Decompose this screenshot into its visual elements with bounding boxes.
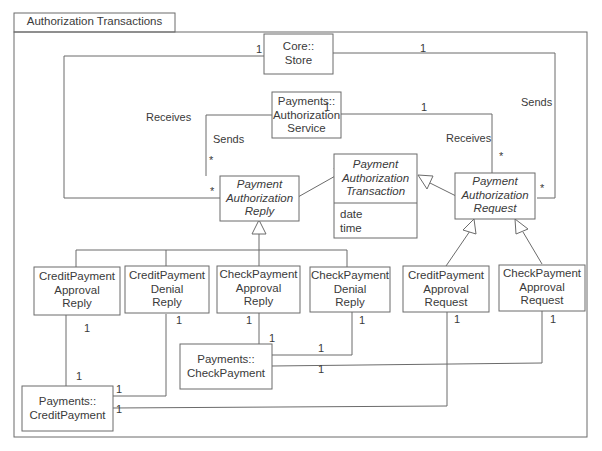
multiplicity: 1	[420, 42, 426, 54]
generalization-reply-transaction	[298, 175, 337, 197]
class-name-payment-authorization-transaction: Payment Authorization Transaction	[334, 158, 417, 199]
multiplicity: 1	[318, 342, 324, 354]
class-name-creditpayment: Payments:: CreditPayment	[22, 395, 113, 422]
generalization-credit-request	[446, 231, 470, 266]
multiplicity: *	[209, 154, 213, 166]
multiplicity: *	[540, 182, 544, 194]
class-name-checkpayment-denial-reply: CheckPayment Denial Reply	[310, 269, 390, 310]
multiplicity: 1	[176, 314, 182, 326]
multiplicity: 1	[256, 43, 262, 55]
label-store-receives: Receives	[146, 111, 191, 123]
association-service-reply	[206, 115, 272, 176]
diagram-canvas	[0, 0, 602, 451]
class-name-checkpayment-approval-reply: CheckPayment Approval Reply	[217, 268, 300, 309]
class-name-creditpayment-denial-reply: CreditPayment Denial Reply	[125, 269, 209, 310]
class-name-checkpayment-approval-request: CheckPayment Approval Request	[499, 267, 585, 308]
association-checkdenial-check	[272, 311, 352, 355]
multiplicity: 1	[318, 363, 324, 375]
association-checkrequest-check	[272, 311, 542, 366]
class-name-creditpayment-approval-request: CreditPayment Approval Request	[403, 269, 489, 310]
generalization-arrow	[463, 219, 476, 234]
class-name-payment-authorization-request: Payment Authorization Request	[455, 175, 535, 216]
multiplicity: 1	[116, 383, 122, 395]
class-attributes-transaction: date time	[340, 208, 362, 235]
multiplicity: 1	[116, 403, 122, 415]
label-service-sends: Sends	[213, 133, 244, 145]
generalization-arrow	[418, 175, 433, 189]
class-name-payment-authorization-reply: Payment Authorization Reply	[220, 178, 299, 219]
generalization-arrow	[515, 219, 528, 234]
multiplicity: 1	[421, 101, 427, 113]
multiplicity: *	[499, 150, 503, 162]
multiplicity: 1	[454, 313, 460, 325]
class-name-core-store: Core:: Store	[264, 40, 333, 67]
label-service-receives: Receives	[446, 132, 491, 144]
class-name-creditpayment-approval-reply: CreditPayment Approval Reply	[34, 270, 120, 311]
generalization-request-transaction	[428, 182, 456, 196]
generalization-tree-reply	[76, 250, 347, 267]
multiplicity: 1	[269, 332, 275, 344]
multiplicity: 1	[550, 313, 556, 325]
class-name-authorization-service: Payments:: Authorization Service	[272, 95, 341, 136]
multiplicity: 1	[246, 314, 252, 326]
package-title: Authorization Transactions	[14, 15, 175, 29]
association-creditrequest-credit	[113, 311, 447, 408]
multiplicity: 1	[324, 101, 330, 113]
generalization-check-request	[523, 232, 542, 264]
label-store-sends: Sends	[521, 96, 552, 108]
multiplicity: 1	[359, 314, 365, 326]
multiplicity: 1	[84, 322, 90, 334]
class-name-checkpayment: Payments:: CheckPayment	[180, 353, 272, 380]
multiplicity: 1	[76, 370, 82, 382]
multiplicity: *	[210, 185, 214, 197]
generalization-arrow	[252, 220, 266, 234]
